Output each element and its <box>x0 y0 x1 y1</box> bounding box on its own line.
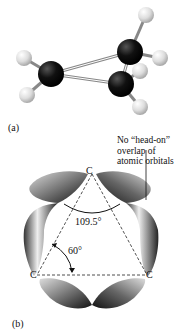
angle-label-109: 109.5° <box>75 216 102 227</box>
bent-bond-orbitals <box>24 171 159 308</box>
hydrogen-atom <box>132 63 148 79</box>
carbon-atom <box>38 61 64 87</box>
annotation-line-2: overlap of <box>117 146 174 157</box>
hydrogen-atom <box>152 50 168 66</box>
hydrogen-atom <box>16 50 32 66</box>
orbital-annotation: No “head-on” overlap of atomic orbitals <box>117 135 174 167</box>
carbon-atom <box>108 71 134 97</box>
annotation-line-3: atomic orbitals <box>117 156 174 167</box>
angle-arc-109 <box>64 204 120 213</box>
hydrogen-atom <box>132 99 148 115</box>
annotation-line-1: No “head-on” <box>117 135 174 146</box>
hydrogen-atom <box>19 87 35 103</box>
bonds <box>24 15 160 107</box>
carbon-label-left: C <box>30 269 37 280</box>
carbon-label-right: C <box>146 269 153 280</box>
panel-a-label: (a) <box>8 122 19 133</box>
carbon-atom <box>117 39 143 65</box>
cyclopropane-ball-stick-model <box>0 0 194 334</box>
hydrogen-atom <box>138 7 154 23</box>
angle-label-60: 60° <box>68 245 82 256</box>
carbon-label-top: C <box>86 165 93 176</box>
panel-b-label: (b) <box>12 318 24 329</box>
